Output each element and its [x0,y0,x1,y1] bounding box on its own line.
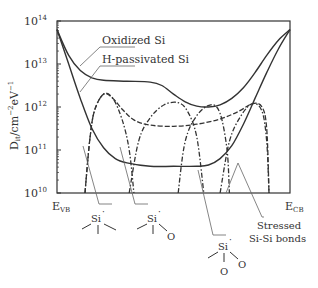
label-stressed: Stressed [257,220,302,231]
annotation-leaders [80,47,264,235]
leader-hpass [80,66,135,92]
defect-si2o-structure: Si · O [137,207,175,242]
oxygen-atom: O [238,259,246,270]
bond [208,252,218,258]
dangling-dot-1: · [102,207,105,217]
label-oxidized-si: Oxidized Si [102,34,166,47]
x-label-evb: EVB [52,200,70,214]
bond [104,224,116,230]
oxygen-atom: O [167,231,175,242]
ytick-label-12: 1012 [24,100,47,114]
leader-stressed [238,163,264,217]
series-si-dangling-bond-si2o [129,102,204,193]
bond [159,224,167,231]
series-h-passivated-si [57,30,290,167]
ytick-label-11: 1011 [24,143,47,157]
leader-si2o [120,147,148,204]
plot-frame [57,21,290,193]
ytick-label-13: 1013 [24,57,47,71]
si-atom-2: Si [147,213,157,224]
dangling-dot-3: · [229,235,232,245]
ytick-label-14: 1014 [24,14,47,28]
label-si-si-bonds: Si-Si bonds [249,233,306,244]
dit-chart: 1014 1013 1012 1011 1010 Dit/cm−2eV−1 EV… [0,0,318,288]
bond [230,252,238,259]
si-atom-3: Si [218,241,228,252]
series-si-dangling-bond-si3 [85,93,134,193]
bond [137,224,147,229]
si-atom-1: Si [91,213,101,224]
x-label-ecb: ECB [285,200,304,214]
y-tick-labels: 1014 1013 1012 1011 1010 [24,14,47,200]
y-axis-label: Dit/cm−2eV−1 [7,81,22,150]
defect-sio2-structure: Si · O O [208,235,246,277]
series-oxidized-si [57,30,290,107]
leader-si3 [83,146,112,204]
defect-si3-structure: Si · [82,207,116,234]
oxygen-atom: O [220,266,228,277]
label-h-passivated-si: H-passivated Si [102,53,189,66]
series-sum-dashed-envelope [85,93,269,193]
bond [82,224,91,229]
leader-stressed-b [226,163,238,193]
ytick-label-10: 1010 [24,186,47,200]
dangling-dot-2: · [158,207,161,217]
